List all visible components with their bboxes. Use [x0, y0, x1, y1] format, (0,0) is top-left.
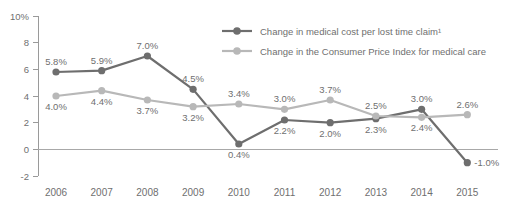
- y-axis-tick-labels: 10%86420-2: [10, 11, 30, 182]
- x-tick-label-2010: 2010: [228, 187, 251, 198]
- legend-label-1: Change in the Consumer Price Index for m…: [260, 46, 486, 57]
- y-tick-label: 8: [24, 37, 29, 48]
- point-label: 3.0%: [274, 93, 296, 104]
- data-point: [52, 92, 59, 99]
- data-point: [464, 111, 471, 118]
- point-label: 3.0%: [411, 93, 433, 104]
- point-label: 2.0%: [319, 128, 341, 139]
- chart-container: 10%86420-2 20062007200820092010201120122…: [0, 0, 510, 208]
- point-label: 0.4%: [228, 149, 250, 160]
- chart-legend: Change in medical cost per lost time cla…: [222, 26, 486, 57]
- x-axis-tick-labels: 2006200720082009201020112012201320142015: [45, 187, 479, 198]
- data-point: [98, 87, 105, 94]
- data-point: [418, 114, 425, 121]
- y-axis-ticks: [33, 16, 38, 176]
- point-label: 2.4%: [411, 122, 433, 133]
- data-point: [52, 68, 59, 75]
- point-label: 5.9%: [91, 55, 113, 66]
- point-label: 3.7%: [319, 84, 341, 95]
- x-tick-label-2009: 2009: [182, 187, 205, 198]
- point-label: 3.2%: [182, 112, 204, 123]
- data-point: [144, 52, 151, 59]
- data-point: [98, 67, 105, 74]
- point-label: -1.0%: [474, 157, 499, 168]
- data-point: [372, 112, 379, 119]
- point-label: 2.5%: [365, 100, 387, 111]
- legend-marker-dot-0: [233, 27, 241, 35]
- point-label: 7.0%: [137, 40, 159, 51]
- data-point: [464, 159, 471, 166]
- point-label: 3.7%: [137, 105, 159, 116]
- point-label: 2.6%: [456, 99, 478, 110]
- data-point: [281, 106, 288, 113]
- point-label: 5.8%: [45, 56, 67, 67]
- x-tick-label-2013: 2013: [365, 187, 388, 198]
- data-point: [327, 96, 334, 103]
- legend-marker-dot-1: [233, 47, 241, 55]
- data-point: [281, 116, 288, 123]
- x-tick-label-2012: 2012: [319, 187, 342, 198]
- y-tick-label: 0: [24, 144, 29, 155]
- data-point: [418, 106, 425, 113]
- y-tick-label: 2: [24, 117, 29, 128]
- y-axis: 10%86420-2: [10, 11, 38, 182]
- series-line-0: [56, 56, 467, 163]
- x-tick-label-2015: 2015: [456, 187, 479, 198]
- data-point: [144, 96, 151, 103]
- x-tick-label-2014: 2014: [410, 187, 433, 198]
- line-chart: 10%86420-2 20062007200820092010201120122…: [0, 0, 510, 208]
- data-point: [235, 140, 242, 147]
- point-label: 4.4%: [91, 96, 113, 107]
- x-tick-label-2011: 2011: [274, 187, 296, 198]
- data-point: [235, 100, 242, 107]
- point-label: 2.3%: [365, 124, 387, 135]
- x-tick-label-2008: 2008: [136, 187, 159, 198]
- data-point: [190, 103, 197, 110]
- y-tick-label: 4: [24, 91, 29, 102]
- x-tick-label-2006: 2006: [45, 187, 68, 198]
- point-label: 3.4%: [228, 88, 250, 99]
- point-label: 4.5%: [182, 73, 204, 84]
- y-tick-label: -2: [21, 171, 29, 182]
- point-label: 4.0%: [45, 101, 67, 112]
- point-label: 2.2%: [274, 125, 296, 136]
- y-tick-label: 10%: [10, 11, 30, 22]
- y-tick-label: 6: [24, 64, 29, 75]
- x-tick-label-2007: 2007: [91, 187, 114, 198]
- data-point: [190, 86, 197, 93]
- data-point: [327, 119, 334, 126]
- legend-label-0: Change in medical cost per lost time cla…: [260, 26, 441, 37]
